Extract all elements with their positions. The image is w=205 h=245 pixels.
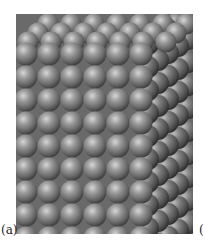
sphere xyxy=(130,158,153,181)
sphere xyxy=(84,135,107,158)
sphere xyxy=(107,135,130,158)
sphere xyxy=(130,43,153,66)
sphere xyxy=(84,89,107,112)
sphere xyxy=(61,158,84,181)
sphere xyxy=(107,181,130,204)
sphere xyxy=(107,43,130,66)
sphere xyxy=(38,158,61,181)
sphere xyxy=(155,31,176,52)
sphere xyxy=(38,181,61,204)
sphere xyxy=(38,204,61,227)
sphere xyxy=(84,112,107,135)
sphere xyxy=(130,135,153,158)
panel-label-b: ( xyxy=(199,224,204,236)
sphere xyxy=(130,181,153,204)
sphere xyxy=(61,43,84,66)
sphere xyxy=(84,66,107,89)
sphere xyxy=(107,204,130,227)
sphere-packing-diagram xyxy=(16,14,193,234)
sphere xyxy=(38,112,61,135)
sphere xyxy=(61,135,84,158)
sphere xyxy=(130,89,153,112)
sphere xyxy=(107,112,130,135)
sphere xyxy=(61,204,84,227)
sphere xyxy=(84,204,107,227)
sphere xyxy=(130,66,153,89)
sphere xyxy=(107,66,130,89)
sphere xyxy=(107,158,130,181)
sphere xyxy=(38,66,61,89)
sphere xyxy=(38,89,61,112)
sphere xyxy=(61,89,84,112)
sphere xyxy=(38,43,61,66)
sphere xyxy=(84,43,107,66)
sphere xyxy=(130,112,153,135)
sphere xyxy=(61,112,84,135)
sphere xyxy=(61,66,84,89)
sphere xyxy=(107,89,130,112)
sphere xyxy=(84,158,107,181)
sphere xyxy=(130,204,153,227)
panel-label-a: (a) xyxy=(1,224,18,236)
sphere xyxy=(38,135,61,158)
sphere-packing-figure xyxy=(16,14,193,234)
sphere xyxy=(84,181,107,204)
sphere xyxy=(61,181,84,204)
